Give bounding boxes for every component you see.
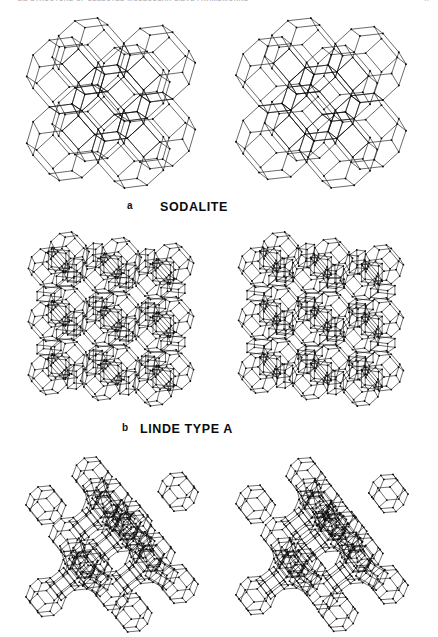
stereo-pair-linde-type-a (0, 228, 438, 413)
figure-panel-linde-type-a (0, 228, 438, 413)
stereo-view-right-faujasite (232, 452, 412, 637)
figure-panel-faujasite (0, 452, 438, 611)
caption-title: SODALITE (160, 200, 228, 214)
stereo-view-left-faujasite (22, 452, 202, 637)
stereo-pair-faujasite (0, 452, 438, 611)
caption-letter: b (122, 422, 128, 433)
running-head-text: 2.2 STRUCTURE OF SELECTED MOLECULAR SIEV… (18, 0, 249, 2)
stereo-view-right-sodalite (232, 14, 410, 192)
page-number: 47 (423, 0, 430, 2)
stereo-view-left-linde-type-a (20, 228, 202, 410)
stereo-view-left-sodalite (22, 14, 200, 192)
figure-panel-sodalite (0, 14, 438, 194)
stereo-view-right-linde-type-a (230, 228, 412, 410)
running-head: 2.2 STRUCTURE OF SELECTED MOLECULAR SIEV… (0, 0, 438, 7)
caption-title: LINDE TYPE A (140, 422, 233, 436)
caption-letter: a (127, 200, 133, 211)
stereo-pair-sodalite (0, 14, 438, 194)
